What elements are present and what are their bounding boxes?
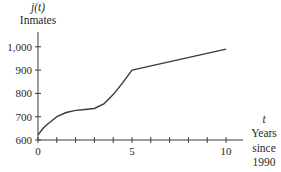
y-axis-ticks: 6007008009001,000 bbox=[7, 41, 41, 146]
y-axis-symbol: j(t) bbox=[29, 1, 45, 14]
y-tick-label: 700 bbox=[16, 111, 33, 123]
inmates-line-chart: j(t) Inmates 6007008009001,000 0510 t Ye… bbox=[0, 0, 281, 172]
x-axis-title-line-1: Years bbox=[251, 127, 277, 139]
x-tick-label: 10 bbox=[221, 145, 233, 157]
x-axis-title-line-2: since bbox=[252, 142, 276, 154]
x-tick-label: 0 bbox=[35, 145, 41, 157]
x-axis-title-line-3: 1990 bbox=[253, 156, 276, 168]
y-tick-label: 900 bbox=[16, 64, 33, 76]
y-tick-label: 800 bbox=[16, 87, 33, 99]
y-tick-label: 600 bbox=[16, 134, 33, 146]
x-axis-symbol: t bbox=[262, 113, 266, 125]
x-tick-label: 5 bbox=[129, 145, 135, 157]
y-axis-title: Inmates bbox=[20, 14, 57, 26]
data-line-j bbox=[38, 49, 226, 135]
y-tick-label: 1,000 bbox=[7, 41, 32, 53]
